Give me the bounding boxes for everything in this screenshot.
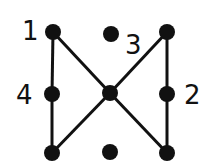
dot-c — [102, 85, 118, 101]
label-3: 3 — [125, 30, 142, 60]
label-2: 2 — [184, 80, 201, 110]
edge-c-br — [110, 93, 167, 153]
dot-ml — [44, 86, 60, 102]
dot-tm — [103, 26, 119, 42]
edge-tl-ml — [52, 32, 53, 94]
label-4: 4 — [16, 80, 33, 110]
dot-br — [159, 145, 175, 161]
dot-pattern-diagram: 1342 — [0, 0, 214, 167]
edge-c-bl — [52, 93, 110, 153]
label-1: 1 — [22, 16, 39, 46]
dot-tr — [159, 24, 175, 40]
dot-bl — [44, 145, 60, 161]
dot-tl — [45, 24, 61, 40]
dot-mr — [159, 86, 175, 102]
dot-bm — [102, 144, 118, 160]
edge-tl-c — [53, 32, 110, 93]
